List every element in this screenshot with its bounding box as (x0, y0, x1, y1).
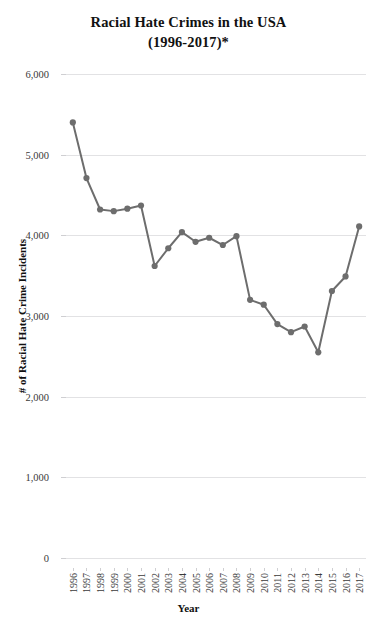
plot-wrapper: # of Racial Hate Crime Incidents 01,0002… (0, 0, 377, 629)
x-tick-mark (332, 568, 333, 571)
x-tick-label: 2014 (313, 573, 324, 593)
data-point-marker (111, 208, 117, 214)
x-tick-label: 2017 (354, 573, 365, 593)
x-tick-mark (291, 568, 292, 571)
x-tick-mark (182, 568, 183, 571)
data-point-marker (206, 235, 212, 241)
x-tick-label: 2016 (340, 573, 351, 593)
data-point-marker (97, 206, 103, 212)
x-tick-mark (359, 568, 360, 571)
x-tick-mark (264, 568, 265, 571)
data-point-marker (179, 229, 185, 235)
data-point-marker (247, 297, 253, 303)
data-point-marker (342, 273, 348, 279)
data-point-marker (220, 242, 226, 248)
x-tick-mark (114, 568, 115, 571)
data-point-marker (356, 223, 362, 229)
data-point-marker (329, 288, 335, 294)
line-series (66, 74, 366, 558)
x-tick-label: 2007 (217, 573, 228, 593)
x-tick-mark (141, 568, 142, 571)
x-tick-label: 2011 (272, 573, 283, 593)
x-tick-label: 2003 (163, 573, 174, 593)
x-tick-label: 2006 (204, 573, 215, 593)
x-tick-label: 2008 (231, 573, 242, 593)
data-point-marker (315, 349, 321, 355)
x-tick-label: 2002 (149, 573, 160, 593)
data-point-marker (152, 263, 158, 269)
data-point-marker (124, 206, 130, 212)
data-point-marker (165, 245, 171, 251)
x-tick-mark (155, 568, 156, 571)
data-point-marker (192, 239, 198, 245)
y-tick-label: 4,000 (0, 230, 49, 241)
x-tick-label: 1997 (81, 573, 92, 593)
data-point-marker (288, 329, 294, 335)
gridline (66, 558, 366, 559)
x-tick-mark (346, 568, 347, 571)
data-point-marker (302, 323, 308, 329)
x-tick-mark (305, 568, 306, 571)
x-tick-label: 2015 (326, 573, 337, 593)
data-point-marker (70, 119, 76, 125)
x-tick-mark (223, 568, 224, 571)
x-tick-label: 1999 (108, 573, 119, 593)
x-tick-label: 1998 (95, 573, 106, 593)
x-tick-label: 2010 (258, 573, 269, 593)
x-tick-label: 2004 (176, 573, 187, 593)
y-tick-label: 3,000 (0, 311, 49, 322)
y-tick-label: 2,000 (0, 391, 49, 402)
x-tick-mark (127, 568, 128, 571)
x-tick-mark (196, 568, 197, 571)
series-line (73, 122, 359, 352)
y-tick-label: 6,000 (0, 69, 49, 80)
y-tick-label: 0 (0, 553, 49, 564)
x-tick-label: 2013 (299, 573, 310, 593)
x-tick-label: 2005 (190, 573, 201, 593)
x-tick-mark (168, 568, 169, 571)
x-tick-mark (250, 568, 251, 571)
x-tick-mark (86, 568, 87, 571)
x-tick-label: 2009 (245, 573, 256, 593)
y-tick-label: 5,000 (0, 149, 49, 160)
x-axis-label: Year (0, 602, 377, 614)
data-point-marker (83, 175, 89, 181)
plot-area: 01,0002,0003,0004,0005,0006,000 (66, 74, 366, 558)
data-point-marker (138, 202, 144, 208)
x-tick-mark (318, 568, 319, 571)
x-tick-mark (100, 568, 101, 571)
y-tick-mark (61, 558, 66, 559)
x-tick-label: 1996 (67, 573, 78, 593)
y-tick-label: 1,000 (0, 472, 49, 483)
chart-figure: Racial Hate Crimes in the USA (1996-2017… (0, 0, 377, 629)
data-point-marker (233, 233, 239, 239)
x-tick-label: 2012 (286, 573, 297, 593)
data-point-marker (274, 321, 280, 327)
x-tick-mark (209, 568, 210, 571)
x-tick-label: 2000 (122, 573, 133, 593)
x-tick-label: 2001 (136, 573, 147, 593)
x-tick-mark (236, 568, 237, 571)
x-tick-mark (277, 568, 278, 571)
data-point-marker (261, 302, 267, 308)
x-tick-mark (73, 568, 74, 571)
